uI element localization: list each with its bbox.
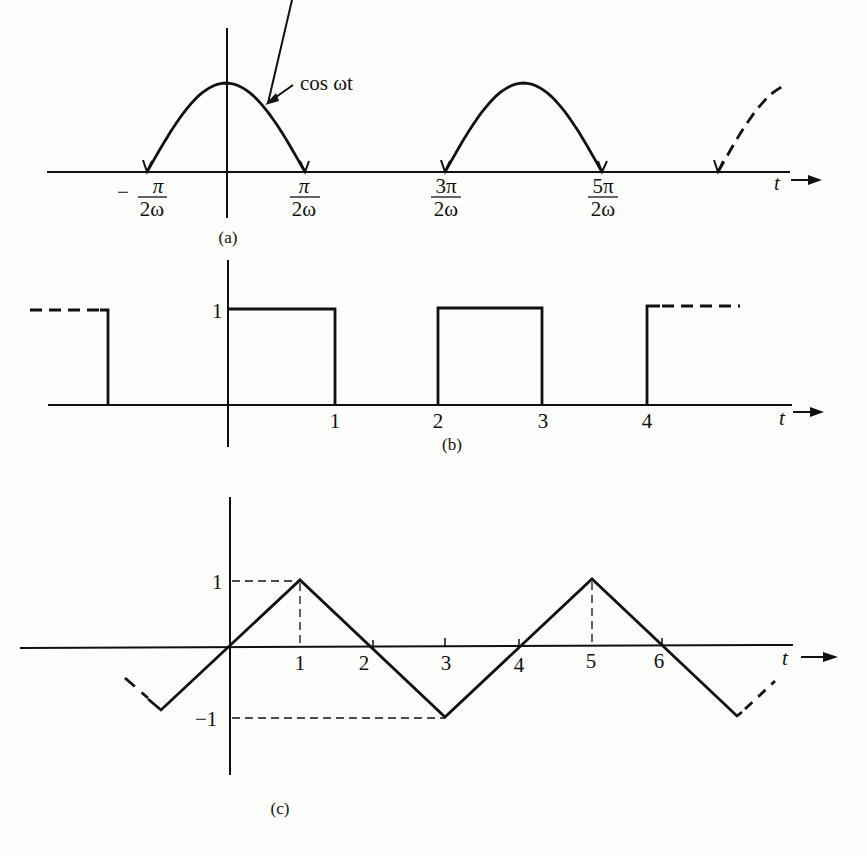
triangle-wave-dashed [125,678,148,698]
tick-label: 5π 2ω [588,174,618,221]
caption: (a) [219,228,238,247]
denominator: 2ω [434,197,458,221]
denominator: 2ω [292,197,316,221]
arrowhead-icon [714,160,723,172]
x-tick-label: 6 [654,649,665,673]
x-tick-label: 5 [586,649,597,673]
denominator: 2ω [591,197,615,221]
t-axis [20,645,793,648]
function-label: cos ωt [300,71,353,95]
square-pulse [228,309,335,405]
panel-a: cos ωt − π 2ω π 2ω 3π 2ω 5π 2ω t (a) [47,0,822,247]
arrowhead-icon [143,160,152,172]
caption: (c) [271,799,290,818]
minus-sign: − [117,180,129,204]
tick-label: − π 2ω [117,174,167,221]
t-axis-label: t [779,406,786,430]
x-tick-label: 2 [433,409,444,433]
x-tick-label: 3 [441,651,452,675]
x-tick-label: 4 [514,653,525,677]
cosine-arc [445,83,602,172]
numerator: π [299,174,310,198]
x-tick-label: 1 [295,651,306,675]
caption: (b) [442,435,462,454]
square-pulse [438,308,542,405]
numerator: 5π [592,174,614,198]
panel-b: 1 1 2 3 4 t (b) [30,260,824,454]
panel-c: 1 −1 1 2 3 4 5 6 t (c) [20,497,838,818]
square-wave-edge [100,310,108,405]
x-tick-label: 1 [330,409,341,433]
figure: cos ωt − π 2ω π 2ω 3π 2ω 5π 2ω t (a) [0,0,867,856]
axis-arrowhead-icon [810,407,824,417]
x-tick-label: 2 [359,651,370,675]
x-tick-label: 4 [642,409,653,433]
arrowhead-icon [441,160,450,172]
t-axis-label: t [774,171,781,195]
arrowhead-icon [598,161,607,172]
numerator: π [153,174,164,198]
y-tick-label: −1 [195,707,217,731]
triangle-wave-dashed [745,681,775,709]
tick-label: 3π 2ω [431,174,461,221]
t-axis-label: t [782,646,789,670]
pointer-arrow-icon [265,93,279,105]
cosine-arc-dashed [718,86,785,173]
tick-label: π 2ω [290,174,320,221]
y-tick-label: 1 [212,299,223,323]
square-pulse [647,306,660,405]
axis-arrowhead-icon [808,175,822,185]
numerator: 3π [435,174,457,198]
axis-arrowhead-icon [823,652,838,662]
x-tick-label: 3 [538,409,549,433]
denominator: 2ω [140,197,164,221]
y-tick-label: 1 [212,570,223,594]
